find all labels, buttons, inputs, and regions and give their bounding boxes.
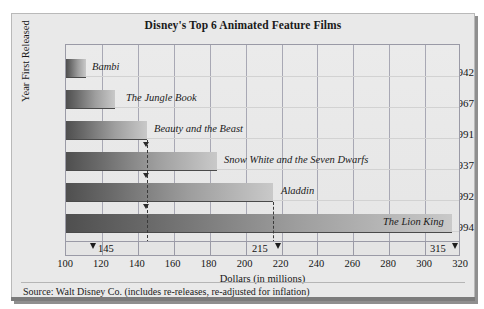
gridline-160 bbox=[174, 45, 175, 241]
annotation-value-215: 215 bbox=[252, 243, 268, 254]
bar-snow-white-and-the-seven-dwarfs bbox=[66, 152, 217, 171]
x-tick-label-300: 300 bbox=[407, 258, 441, 269]
x-tick-label-180: 180 bbox=[192, 258, 226, 269]
x-tickline-240 bbox=[317, 242, 318, 255]
panel-bottom-edge bbox=[11, 297, 475, 301]
chart-title: Disney's Top 6 Animated Feature Films bbox=[12, 19, 474, 31]
bar-the-jungle-book bbox=[66, 90, 115, 109]
x-tickline-200 bbox=[246, 242, 247, 255]
gridline-240 bbox=[317, 45, 318, 241]
x-tick-label-240: 240 bbox=[299, 258, 333, 269]
bar-label-snow-white-and-the-seven-dwarfs: Snow White and the Seven Dwarfs bbox=[224, 154, 368, 165]
annotation-marker-145 bbox=[90, 243, 96, 249]
band-separator bbox=[66, 107, 459, 108]
x-tickline-280 bbox=[389, 242, 390, 255]
chart-panel: Disney's Top 6 Animated Feature Films Ye… bbox=[11, 13, 475, 301]
bar-aladdin bbox=[66, 183, 273, 202]
annotation-line-215 bbox=[273, 202, 274, 242]
x-tickline-180 bbox=[210, 242, 211, 255]
x-tickline-140 bbox=[138, 242, 139, 255]
bar-label-the-jungle-book: The Jungle Book bbox=[126, 92, 197, 103]
x-tick-label-320: 320 bbox=[443, 258, 477, 269]
annotation-marker-315 bbox=[452, 243, 458, 249]
x-tickline-220 bbox=[282, 242, 283, 255]
plot-area: Bambi The Jungle Book Beauty and the Bea… bbox=[65, 44, 460, 242]
gridline-200 bbox=[246, 45, 247, 241]
x-tick-label-280: 280 bbox=[371, 258, 405, 269]
bar-bambi bbox=[66, 59, 86, 78]
source-divider bbox=[21, 282, 465, 283]
annotation-arrow-145-row5 bbox=[143, 173, 149, 178]
annotation-line-145 bbox=[147, 140, 148, 242]
chart-screenshot: Disney's Top 6 Animated Feature Films Ye… bbox=[0, 0, 484, 309]
gridline-220 bbox=[282, 45, 283, 241]
bar-label-bambi: Bambi bbox=[92, 61, 119, 72]
annotation-marker-215 bbox=[275, 243, 281, 249]
bar-label-aladdin: Aladdin bbox=[281, 185, 314, 196]
x-tick-label-260: 260 bbox=[335, 258, 369, 269]
x-tickline-300 bbox=[425, 242, 426, 255]
y-axis-title: Year First Released bbox=[20, 20, 31, 102]
annotation-arrow-145-row6 bbox=[143, 204, 149, 209]
gridline-120 bbox=[102, 45, 103, 241]
x-tickline-160 bbox=[174, 242, 175, 255]
gridline-300 bbox=[425, 45, 426, 241]
source-note: Source: Walt Disney Co. (includes re-rel… bbox=[23, 286, 310, 297]
band-separator bbox=[66, 76, 459, 77]
gridline-280 bbox=[389, 45, 390, 241]
x-tick-label-200: 200 bbox=[228, 258, 262, 269]
gridline-140 bbox=[138, 45, 139, 241]
x-tick-label-100: 100 bbox=[48, 258, 82, 269]
bar-beauty-and-the-beast bbox=[66, 121, 147, 140]
annotation-value-315: 315 bbox=[430, 243, 446, 254]
annotation-arrow-145-row4 bbox=[143, 142, 149, 147]
bar-label-beauty-and-the-beast: Beauty and the Beast bbox=[154, 123, 243, 134]
x-tick-label-120: 120 bbox=[84, 258, 118, 269]
x-tick-label-220: 220 bbox=[264, 258, 298, 269]
annotation-value-145: 145 bbox=[98, 243, 114, 254]
gridline-180 bbox=[210, 45, 211, 241]
x-tickline-260 bbox=[353, 242, 354, 255]
bar-label-the-lion-king: The Lion King bbox=[383, 216, 444, 227]
x-tick-label-140: 140 bbox=[120, 258, 154, 269]
x-tick-label-160: 160 bbox=[156, 258, 190, 269]
gridline-260 bbox=[353, 45, 354, 241]
